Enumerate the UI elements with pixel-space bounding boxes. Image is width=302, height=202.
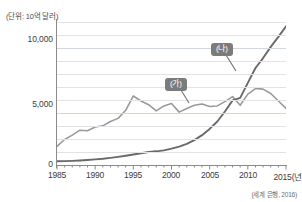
series-callout-na: (나) — [211, 43, 233, 56]
x-tick-label-2005: 2005 — [201, 170, 219, 180]
source-note: (세계 은행, 2016) — [251, 189, 297, 199]
series-callout-ga: (가) — [165, 78, 187, 91]
x-axis-line — [56, 165, 287, 166]
gridline-5000 — [57, 113, 286, 114]
series-lines — [57, 22, 286, 165]
y-tick-label-10000: 10,000 — [28, 34, 53, 44]
x-tick-label-1990: 1990 — [86, 170, 104, 180]
gridline — [57, 61, 286, 62]
gridline — [57, 35, 286, 36]
y-tick-label-5000: 5,000 — [32, 99, 53, 109]
x-tick-label-1995: 1995 — [124, 170, 142, 180]
x-tick-label-2015: 2015(년) — [274, 170, 302, 182]
y-tick-label-0: 0 — [48, 159, 53, 169]
plot-area — [57, 22, 286, 165]
gridline — [57, 100, 286, 101]
series-line-na — [57, 26, 286, 161]
gridline — [57, 126, 286, 127]
gridline — [57, 152, 286, 153]
y-axis-line — [56, 19, 57, 168]
gridline-10000 — [57, 48, 286, 49]
gridline — [57, 139, 286, 140]
chart-figure: (단위: 10억 달러) 10,000 5,000 0 1985 1990 19… — [0, 0, 302, 202]
series-line-ga — [57, 89, 286, 147]
gridline — [57, 22, 286, 23]
gridline — [57, 74, 286, 75]
x-tick-label-2010: 2010 — [239, 170, 257, 180]
x-tick-label-1985: 1985 — [48, 170, 66, 180]
y-axis-tick-labels: 10,000 5,000 0 — [0, 0, 53, 202]
x-tick-label-2000: 2000 — [162, 170, 180, 180]
